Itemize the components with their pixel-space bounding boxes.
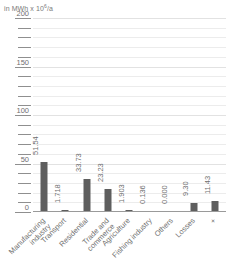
plot-area: 51.541.71833.7323.231.9030.1360.0009.301… [33,18,226,212]
bar-value-label: 51.54 [31,136,40,155]
bar-slot: 1.903 [119,18,140,212]
bar-slot: 1.718 [54,18,75,212]
y-tick-label: 50 [2,154,29,163]
bar-slot: 11.43 [205,18,226,212]
y-tick-mark-minor [18,125,31,126]
bar-slot: 23.23 [97,18,118,212]
bar-value-label: 11.43 [203,176,212,194]
y-tick-mark-minor [18,173,31,174]
x-axis-category-labels: Manufacturing industryTransportResidenti… [33,214,226,276]
y-tick-mark-minor [18,47,31,48]
bar-slot: 0.136 [140,18,161,212]
y-tick-label: 150 [2,57,29,66]
unit-caption-suffix: /a [47,5,53,12]
bar-value-label: 1.718 [53,185,62,204]
bar-value-label: 9.30 [181,181,190,196]
x-axis-line [33,211,226,212]
bar[interactable] [83,179,90,212]
bar-value-label: 0.136 [138,185,147,204]
bar-slot: 33.73 [76,18,97,212]
y-tick-label: 100 [2,106,29,115]
y-tick-mark-minor [18,28,31,29]
bar-chart: in MWh x 106/a 51.541.71833.7323.231.903… [0,0,228,276]
y-tick-mark-minor [18,86,31,87]
y-tick-mark-minor [18,76,31,77]
bar-slot: 9.30 [183,18,204,212]
bar[interactable] [105,189,112,212]
y-tick-mark-minor [18,37,31,38]
y-tick-mark-major [15,212,31,213]
bar-value-label: 23.23 [96,164,105,183]
bar[interactable] [40,162,47,212]
y-tick-mark-major [15,18,31,19]
bar-slot: 0.000 [162,18,183,212]
bar-value-label: 1.903 [117,184,126,203]
y-tick-label: 200 [2,9,29,18]
y-tick-mark-major [15,67,31,68]
y-tick-mark-minor [18,144,31,145]
bar-value-label: 0.000 [160,185,169,204]
y-tick-mark-major [15,164,31,165]
bar-slot: 51.54 [33,18,54,212]
y-tick-mark-major [15,115,31,116]
y-tick-mark-minor [18,96,31,97]
y-tick-mark-minor [18,193,31,194]
category-slot: + [205,214,226,276]
y-tick-mark-minor [18,134,31,135]
y-tick-label: 0 [2,203,29,212]
bar-value-label: 33.73 [74,154,83,173]
y-tick-mark-minor [18,183,31,184]
